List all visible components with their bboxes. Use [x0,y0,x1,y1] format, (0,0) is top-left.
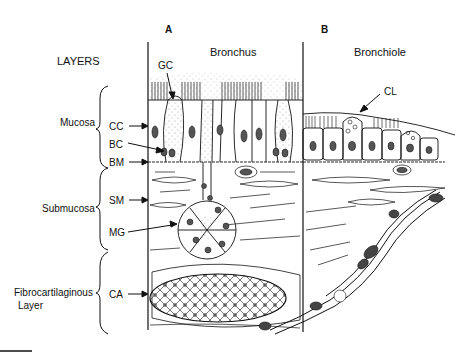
layers-title: LAYERS [57,56,100,67]
layer-fibrocartilaginous: Fibrocartilaginous [14,287,93,298]
pointer-arrows [128,73,380,297]
layer-mucosa: Mucosa [60,117,95,128]
panel-b-title: Bronchiole [354,47,406,58]
panel-a-letter: A [165,24,172,35]
label-cc: CC [109,121,123,132]
cartilage-plate [150,264,300,328]
panel-b-letter: B [321,24,328,35]
label-mg: MG [109,227,125,238]
bronchiole-nuclei [310,142,432,154]
submucosa-brace [96,168,108,250]
label-sm: SM [109,195,124,206]
smooth-muscle-nuclei [259,194,443,330]
gland-duct [200,100,213,162]
label-gc: GC [158,60,173,71]
panel-a-title: Bronchus [210,47,256,58]
bronchiole-smooth-muscle [270,190,445,334]
layer-fibrocartilaginous-line2: Layer [18,300,43,311]
layer-submucosa: Submucosa [42,203,95,214]
fibrocartilage-brace [96,252,108,334]
bronchiole-surface [303,113,455,135]
layer-braces [96,86,108,334]
label-bm: BM [109,157,124,168]
clara-cell-granules [346,120,415,140]
label-ca: CA [109,289,123,300]
mucosa-brace [96,86,108,168]
label-cl: CL [384,86,397,97]
label-bc: BC [109,139,123,150]
mixed-gland [178,162,236,259]
